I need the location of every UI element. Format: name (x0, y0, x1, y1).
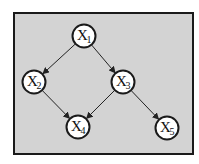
node-x5: X5 (156, 117, 179, 140)
node-subscript: 4 (81, 125, 86, 136)
node-x4: X4 (67, 116, 90, 139)
node-subscript: 1 (87, 34, 92, 45)
node-subscript: 2 (37, 80, 42, 91)
node-subscript: 3 (126, 80, 131, 91)
node-x3: X3 (112, 71, 135, 94)
node-x2: X2 (23, 71, 46, 94)
node-x1: X1 (73, 25, 96, 48)
node-subscript: 5 (170, 126, 175, 137)
bayesian-network-diagram: X1X2X3X4X5 (0, 0, 199, 164)
